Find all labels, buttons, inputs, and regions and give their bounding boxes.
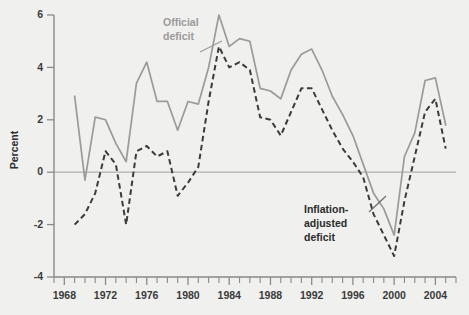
x-axis-tick-label: 1988: [259, 289, 283, 301]
y-axis-title: Percent: [8, 130, 20, 169]
annotation-inflation-adjusted-deficit: Inflation-adjusteddeficit: [304, 196, 386, 243]
y-axis-tick-label: -2: [34, 218, 43, 230]
x-axis-tick-label: 1992: [300, 289, 324, 301]
annotation-inflation-adjusted-deficit-line: deficit: [304, 231, 335, 243]
x-axis-tick-label: 1976: [135, 289, 159, 301]
y-axis-tick-label: 0: [37, 165, 43, 177]
x-axis-tick-label: 1968: [53, 289, 77, 301]
x-axis-tick-label: 1996: [341, 289, 365, 301]
x-axis-tick-label: 1984: [218, 289, 242, 301]
annotation-inflation-adjusted-deficit-line: adjusted: [304, 217, 347, 229]
y-axis-tick-label: 6: [37, 8, 43, 20]
y-axis-tick-label: -4: [34, 270, 43, 282]
deficit-line-chart: 6420-2-419681972197619801984198819921996…: [0, 0, 469, 315]
x-axis-tick-label: 2000: [382, 289, 406, 301]
y-axis-tick-label: 2: [37, 113, 43, 125]
chart-container: 6420-2-419681972197619801984198819921996…: [0, 0, 469, 315]
annotation-inflation-adjusted-deficit-line: Inflation-: [304, 203, 349, 215]
y-axis-tick-label: 4: [37, 61, 43, 73]
x-axis-tick-label: 1972: [94, 289, 118, 301]
annotation-official-deficit-line: Official: [163, 16, 199, 28]
x-axis-tick-label: 1980: [176, 289, 200, 301]
annotation-official-deficit-line: deficit: [163, 30, 194, 42]
x-axis-tick-label: 2004: [424, 289, 448, 301]
